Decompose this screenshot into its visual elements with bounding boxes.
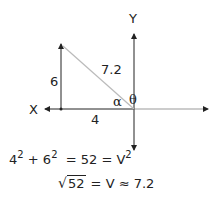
magnitude-equation: √52 = V ≈ 7.2 [58,175,154,191]
leg-base-dot [60,108,63,111]
magnitude-result: = V ≈ 7.2 [91,176,155,191]
theta-angle-label: θ [129,92,137,107]
equals-sign-1: = [66,152,77,167]
term-b: 6 [43,152,51,167]
radical-sign-icon: √ [58,175,67,191]
term-b-exponent: 2 [51,149,57,160]
hypotenuse-vector [63,46,134,109]
v-exponent: 2 [125,149,131,160]
equals-sign-2: = [101,152,112,167]
plus-sign: + [28,152,39,167]
sum-value: 52 [81,152,98,167]
hypotenuse-label: 7.2 [101,62,122,77]
vertical-leg-label: 6 [50,74,58,89]
horizontal-leg-label: 4 [91,112,99,127]
v-term: V [116,152,125,167]
radicand: 52 [67,175,87,191]
term-a-exponent: 2 [17,149,23,160]
pythagorean-equation: 42 + 62 = 52 = V2 [9,152,132,167]
y-axis-label: Y [128,11,137,26]
square-root: √52 [58,175,86,191]
alpha-angle-label: α [113,94,122,109]
x-axis-label: X [29,102,38,117]
